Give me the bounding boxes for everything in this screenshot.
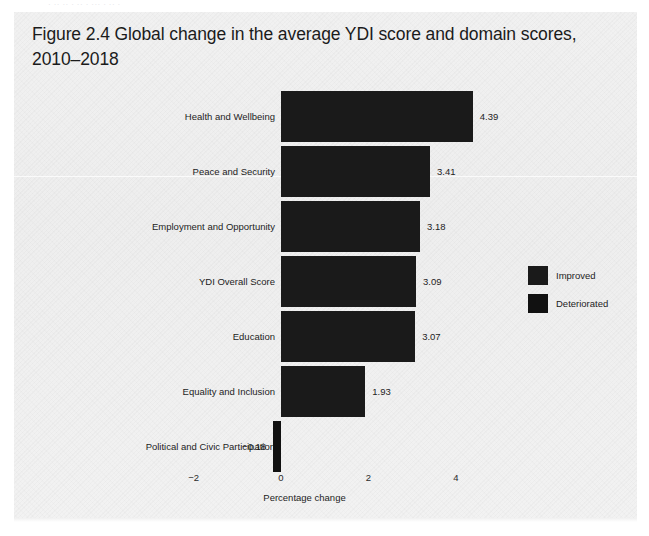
- bar-value-label: 3.41: [437, 166, 456, 177]
- bar[interactable]: [273, 421, 281, 472]
- bar-chart-plot-area: Health and Wellbeing Peace and Security …: [0, 0, 649, 536]
- bar[interactable]: [281, 256, 416, 307]
- x-tick-label: 0: [278, 472, 283, 483]
- legend-item-improved[interactable]: Improved: [528, 266, 608, 285]
- chart-legend: Improved Deteriorated: [528, 266, 608, 322]
- bar[interactable]: [281, 366, 365, 417]
- x-axis-title-text: Percentage change: [263, 492, 345, 503]
- legend-item-deteriorated[interactable]: Deteriorated: [528, 294, 608, 313]
- legend-label-improved: Improved: [556, 270, 596, 281]
- category-label: Education: [233, 331, 275, 342]
- bar[interactable]: [281, 311, 415, 362]
- bar-value-label: 3.18: [427, 221, 446, 232]
- bar[interactable]: [281, 91, 473, 142]
- legend-swatch-deteriorated: [528, 294, 548, 313]
- bar-value-label: 3.09: [423, 276, 442, 287]
- bar-value-label: 4.39: [480, 111, 499, 122]
- bar-value-label: 3.07: [422, 331, 441, 342]
- bar[interactable]: [281, 201, 420, 252]
- category-label: Employment and Opportunity: [152, 221, 275, 232]
- bar-value-label: 1.93: [372, 386, 391, 397]
- category-label: Health and Wellbeing: [185, 111, 275, 122]
- x-tick-label: 4: [453, 472, 458, 483]
- category-label: Equality and Inclusion: [183, 386, 275, 397]
- x-tick-label: −2: [188, 472, 199, 483]
- x-tick-label: 2: [366, 472, 371, 483]
- legend-swatch-improved: [528, 266, 548, 285]
- category-label: Peace and Security: [193, 166, 275, 177]
- x-axis-title: Percentage change: [0, 492, 649, 503]
- category-label: YDI Overall Score: [199, 276, 275, 287]
- bar-value-label: −0.18: [242, 441, 266, 452]
- page-bottom-fade: [14, 518, 637, 522]
- bar[interactable]: [281, 146, 430, 197]
- legend-label-deteriorated: Deteriorated: [556, 298, 608, 309]
